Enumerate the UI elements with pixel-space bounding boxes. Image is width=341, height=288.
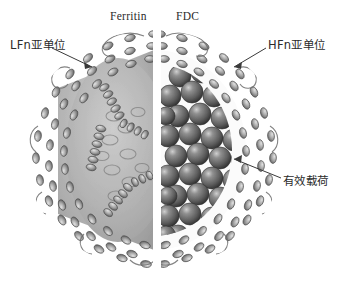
label-ferritin: Ferritin	[110, 10, 147, 22]
hfn-arrowhead	[234, 62, 242, 69]
label-lfn-subunit: LFn亚单位	[10, 36, 65, 52]
label-fdc: FDC	[176, 10, 199, 22]
lfn-arrowhead	[84, 62, 92, 69]
payload-arrowhead	[234, 155, 242, 163]
label-payload: 有效载荷	[283, 172, 328, 188]
label-hfn-subunit: HFn亚单位	[268, 36, 325, 52]
ferritin-nanocage-figure: Ferritin FDC LFn亚单位 HFn亚单位 有效载荷	[0, 0, 341, 288]
